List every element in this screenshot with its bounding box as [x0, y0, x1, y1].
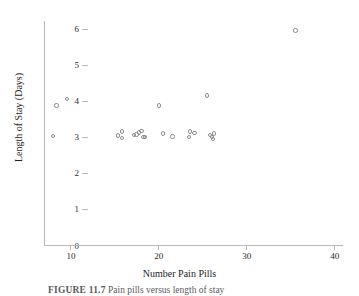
data-point: [293, 28, 297, 32]
y-tick-3: 3: [82, 137, 88, 138]
data-point: [170, 134, 174, 138]
scatter-plot: 0123456 10203040: [44, 18, 344, 246]
y-tick-6: 6: [82, 29, 88, 30]
data-point: [161, 131, 165, 135]
y-tick-5: 5: [82, 65, 88, 66]
x-tick-label: 40: [330, 252, 339, 261]
data-point: [120, 129, 124, 133]
data-point: [212, 131, 216, 135]
figure-caption: FIGURE 11.7 Pain pills versus length of …: [48, 285, 348, 296]
y-tick-label: 3: [75, 133, 80, 142]
data-point: [120, 136, 124, 140]
data-point: [187, 135, 191, 139]
x-axis-title: Number Pain Pills: [0, 268, 359, 279]
y-tick-4: 4: [82, 101, 88, 102]
data-point: [143, 135, 147, 139]
x-tick-label: 30: [242, 252, 251, 261]
figure-caption-text: Pain pills versus length of stay: [108, 285, 224, 295]
y-tick-label: 4: [75, 97, 80, 106]
y-axis-title: Length of Stay (Days): [13, 53, 24, 183]
data-point: [139, 129, 143, 133]
data-point: [51, 134, 55, 138]
data-point: [65, 97, 69, 101]
y-tick-2: 2: [82, 173, 88, 174]
x-tick-label: 10: [66, 252, 75, 261]
figure-caption-label: FIGURE 11.7: [48, 285, 106, 295]
y-tick-label: 6: [75, 25, 80, 34]
y-tick-label: 5: [75, 61, 80, 70]
data-point: [211, 137, 215, 141]
x-tick-label: 20: [154, 252, 163, 261]
y-tick-label: 2: [75, 169, 80, 178]
y-tick-label: 1: [75, 205, 80, 214]
data-point: [192, 131, 196, 135]
data-point: [54, 103, 58, 107]
data-point: [205, 93, 209, 97]
x-axis-line: [44, 245, 343, 246]
y-tick-1: 1: [82, 209, 88, 210]
data-point: [157, 103, 161, 107]
y-axis-line: [44, 21, 45, 246]
